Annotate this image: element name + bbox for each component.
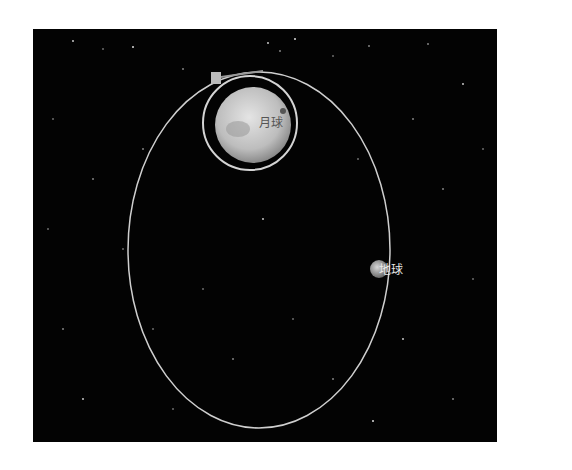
earth-label: 地球 [379,260,403,277]
moon-label: 月球 [259,113,283,130]
orbit-diagram [33,29,497,442]
space-scene: 月球 地球 [33,29,497,442]
